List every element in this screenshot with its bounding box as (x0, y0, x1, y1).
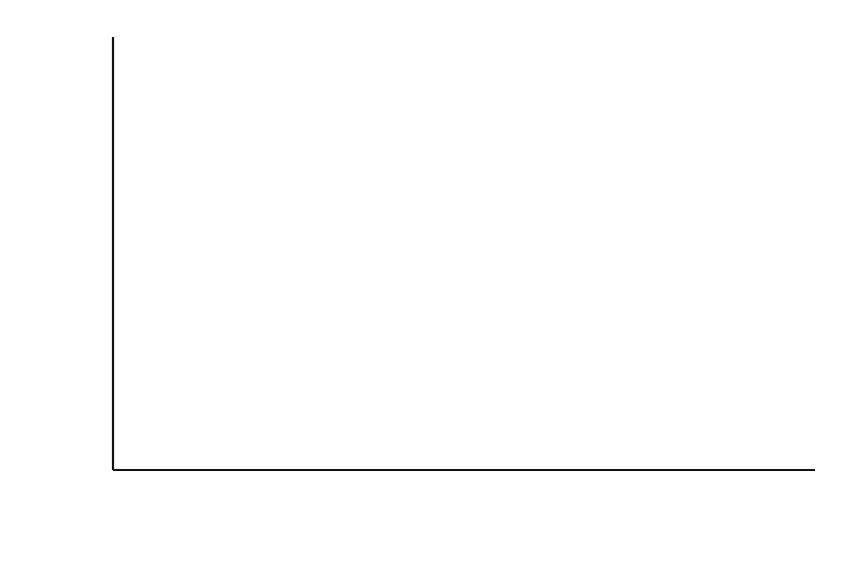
plot-background (113, 37, 815, 470)
area-chart (0, 0, 861, 572)
chart-container (0, 0, 861, 572)
